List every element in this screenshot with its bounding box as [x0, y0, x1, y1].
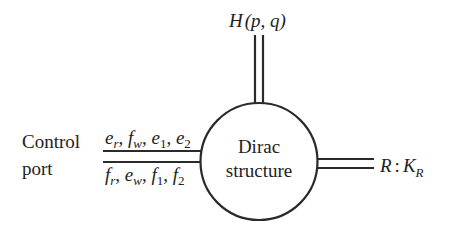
lower-sep-2: ,	[163, 164, 173, 185]
resistive-bond	[316, 159, 374, 168]
resistive-label: R:KR	[379, 155, 424, 180]
lower-signal-1-sub: w	[133, 173, 142, 188]
resistive-R: R	[379, 155, 392, 176]
control-port-title-line2: port	[22, 158, 53, 179]
control-port-title-line1: Control	[22, 131, 80, 152]
hamiltonian-symbol: H	[228, 10, 244, 31]
lower-signal-1-sym: e	[125, 164, 133, 185]
upper-signal-3-sym: e	[176, 127, 184, 148]
hamiltonian-args: (p, q)	[245, 10, 286, 32]
control-port-upper-signals: er, fw, e1, e2	[105, 127, 191, 151]
control-port-bond	[103, 151, 202, 162]
upper-signal-2-sym: e	[151, 127, 159, 148]
upper-sep-2: ,	[166, 127, 176, 148]
upper-signal-1-sub: w	[133, 136, 142, 151]
hamiltonian-bond	[255, 35, 263, 104]
upper-signal-0-sym: e	[105, 127, 113, 148]
lower-signal-3-sub: 2	[178, 173, 185, 188]
dirac-label-line2: structure	[226, 160, 292, 181]
dirac-structure-diagram: Dirac structure H(p, q) R:KR Control por…	[0, 0, 453, 229]
upper-sep-1: ,	[142, 127, 152, 148]
upper-signal-3-sub: 2	[184, 136, 191, 151]
control-port-lower-signals: fr, ew, f1, f2	[105, 164, 185, 188]
resistive-K-subscript: R	[415, 165, 424, 180]
hamiltonian-label: H(p, q)	[228, 10, 286, 32]
lower-sep-1: ,	[142, 164, 152, 185]
resistive-colon: :	[395, 155, 400, 176]
dirac-label-line1: Dirac	[238, 136, 280, 157]
upper-sep-0: ,	[119, 127, 129, 148]
lower-sep-0: ,	[115, 164, 125, 185]
